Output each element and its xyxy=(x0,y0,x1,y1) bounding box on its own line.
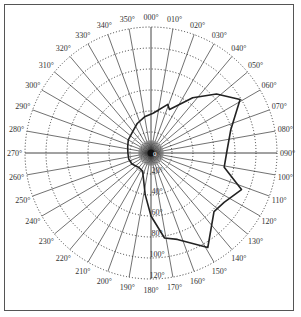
radial-label: 100° xyxy=(149,250,164,259)
angle-label: 000° xyxy=(143,13,158,22)
angle-label: 040° xyxy=(231,44,246,53)
angle-label: 050° xyxy=(248,61,263,70)
angle-label: 140° xyxy=(231,254,246,263)
angle-label: 060° xyxy=(262,81,277,90)
angle-label: 340° xyxy=(97,21,112,30)
angle-label: 240° xyxy=(25,217,40,226)
angle-label: 190° xyxy=(120,283,135,292)
polar-chart: 000°010°020°030°040°050°060°070°080°090°… xyxy=(0,0,301,317)
radial-label: 20° xyxy=(151,166,162,175)
angle-label: 120° xyxy=(262,217,277,226)
angle-label: 080° xyxy=(278,125,293,134)
angle-label: 220° xyxy=(56,254,71,263)
angle-label: 010° xyxy=(167,15,182,24)
angle-label: 280° xyxy=(9,125,24,134)
angle-label: 310° xyxy=(39,61,54,70)
angle-label: 270° xyxy=(7,149,22,158)
angle-label: 130° xyxy=(248,237,263,246)
radial-label: 60° xyxy=(151,208,162,217)
angle-label: 100° xyxy=(278,173,293,182)
angle-label: 230° xyxy=(39,237,54,246)
angle-label: 350° xyxy=(120,15,135,24)
radial-label: 120° xyxy=(149,271,164,280)
angle-label: 260° xyxy=(9,173,24,182)
angle-label: 300° xyxy=(25,81,40,90)
angle-label: 020° xyxy=(190,21,205,30)
angle-label: 330° xyxy=(75,31,90,40)
radial-label: 40° xyxy=(151,187,162,196)
center-label: 0 xyxy=(153,150,157,158)
angle-label: 250° xyxy=(15,196,30,205)
angle-label: 160° xyxy=(190,277,205,286)
angle-label: 070° xyxy=(272,102,287,111)
angle-label: 090° xyxy=(280,149,295,158)
angle-label: 110° xyxy=(272,196,287,205)
angle-label: 210° xyxy=(75,267,90,276)
angle-label: 290° xyxy=(15,102,30,111)
angle-label: 200° xyxy=(97,277,112,286)
angle-label: 030° xyxy=(212,31,227,40)
angle-label: 170° xyxy=(167,283,182,292)
angle-label: 180° xyxy=(143,286,158,295)
angle-label: 320° xyxy=(56,44,71,53)
angle-label: 150° xyxy=(212,267,227,276)
